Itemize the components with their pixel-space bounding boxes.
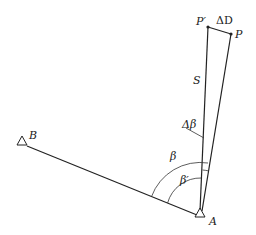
label-p-prime: P′ bbox=[195, 15, 206, 28]
label-beta-prime: β′ bbox=[179, 174, 189, 187]
label-a: A bbox=[208, 215, 217, 228]
label-p: P bbox=[234, 28, 243, 41]
label-delta-d: ΔD bbox=[216, 14, 233, 27]
label-beta: β bbox=[169, 150, 176, 163]
station-b-triangle-icon bbox=[17, 136, 27, 145]
point-p-prime-dot bbox=[206, 25, 209, 28]
label-s: S bbox=[193, 74, 201, 87]
label-delta-beta: Δβ bbox=[181, 118, 196, 131]
diagram-canvas: P′ ΔD P S Δβ β β′ A B bbox=[0, 0, 256, 235]
label-b: B bbox=[28, 129, 37, 142]
point-p-dot bbox=[229, 32, 232, 35]
line-delta-d bbox=[208, 27, 231, 34]
angle-delta-beta-arc bbox=[203, 170, 210, 171]
station-a-triangle-icon bbox=[195, 208, 205, 217]
